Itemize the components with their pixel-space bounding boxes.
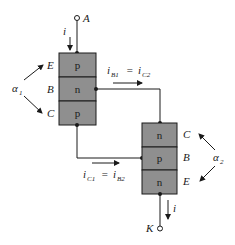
t1-pin-b: B (47, 83, 54, 95)
cathode-terminal: K (145, 194, 163, 234)
transistor-1: p n p E B C α 1 (12, 53, 98, 127)
t1-pin-e: E (46, 59, 54, 71)
alpha2-arrow-up (199, 134, 215, 150)
t2-pin-e: E (182, 175, 190, 187)
t2-layer-1-label: n (157, 129, 163, 141)
svg-text:2: 2 (220, 158, 224, 166)
svg-text:α: α (213, 151, 219, 163)
t1-layer-1-label: p (75, 59, 81, 71)
svg-text:i: i (83, 168, 86, 180)
cathode-current-label: i (173, 202, 176, 214)
svg-text:1: 1 (19, 89, 23, 97)
t2-pin-b: B (183, 151, 190, 163)
alpha1-arrow-down (24, 96, 42, 113)
alpha2-arrow-down (200, 166, 215, 181)
svg-text:i: i (107, 64, 110, 76)
anode-terminal: A (75, 12, 91, 55)
svg-text:i: i (138, 64, 141, 76)
alpha1-arrow-up (24, 65, 43, 80)
transistor-2: n p n C B E α 2 (142, 123, 224, 196)
two-transistor-thyristor-diagram: A i p n p E B C α 1 i B1 = i C2 (0, 0, 235, 245)
svg-text:α: α (12, 82, 18, 94)
t1-pin-c: C (47, 107, 55, 119)
svg-text:i: i (113, 168, 116, 180)
alpha1-label: α 1 (12, 82, 23, 97)
cathode-current-arrow: i (168, 200, 176, 219)
t2-layer-3-label: n (157, 176, 163, 188)
t2-layer-2-label: p (157, 152, 163, 164)
alpha2-label: α 2 (213, 151, 224, 166)
cathode-label: K (145, 222, 154, 234)
svg-text:C2: C2 (142, 71, 151, 79)
wire-ib1-ic2 (96, 89, 160, 123)
t1-layer-2-label: n (75, 83, 81, 95)
svg-text:C1: C1 (87, 175, 95, 183)
t2-pin-c: C (183, 128, 191, 140)
current-ib1-ic2-label: i B1 = i C2 (107, 64, 151, 79)
svg-text:B1: B1 (111, 71, 119, 79)
svg-text:=: = (126, 64, 133, 76)
wire-ic1-ib2 (77, 125, 142, 158)
svg-text:=: = (101, 168, 108, 180)
anode-current-label: i (63, 25, 66, 37)
anode-label: A (82, 12, 90, 24)
current-ic1-ib2-label: i C1 = i B2 (83, 168, 125, 183)
t1-layer-3-label: p (75, 107, 81, 119)
svg-text:B2: B2 (117, 175, 125, 183)
anode-current-arrow: i (63, 25, 70, 50)
